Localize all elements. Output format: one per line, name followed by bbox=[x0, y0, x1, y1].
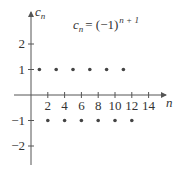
data-point bbox=[122, 68, 126, 72]
x-tick-label: 10 bbox=[109, 98, 122, 113]
data-point bbox=[46, 119, 50, 123]
data-point bbox=[113, 119, 117, 123]
x-axis-label: n bbox=[166, 95, 173, 110]
y-tick-label: −2 bbox=[11, 138, 25, 153]
formula-label: cn= (−1)n + 1 bbox=[73, 15, 139, 34]
data-point bbox=[88, 68, 92, 72]
y-tick-label: 2 bbox=[19, 36, 26, 51]
data-point bbox=[71, 68, 75, 72]
x-tick-label: 6 bbox=[78, 98, 85, 113]
x-tick-label: 12 bbox=[125, 98, 138, 113]
sequence-plot: 2468101214 21−1−2 cn n cn= (−1)n + 1 bbox=[0, 0, 183, 173]
x-tick-label: 4 bbox=[61, 98, 68, 113]
x-tick-label: 14 bbox=[142, 98, 156, 113]
data-point bbox=[38, 68, 42, 72]
data-point bbox=[96, 119, 100, 123]
data-point bbox=[105, 68, 109, 72]
data-point bbox=[80, 119, 84, 123]
y-tick-label: 1 bbox=[19, 62, 26, 77]
y-tick-label: −1 bbox=[11, 113, 25, 128]
data-point bbox=[130, 119, 134, 123]
x-tick-label: 2 bbox=[45, 98, 52, 113]
data-point bbox=[63, 119, 67, 123]
data-point bbox=[54, 68, 58, 72]
y-axis-label: cn bbox=[35, 4, 46, 21]
x-tick-label: 8 bbox=[95, 98, 102, 113]
